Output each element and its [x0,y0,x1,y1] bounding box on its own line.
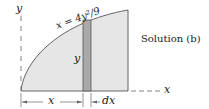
area-diagram: y x = 4y²/9 y Solution (b) x x dx [0,0,209,109]
differential-strip [83,20,91,91]
dim-x-label: x [48,94,54,107]
x-axis-label: x [164,83,170,96]
solution-caption: Solution (b) [141,33,201,44]
diagram-graphics [0,0,209,109]
strip-height-label: y [74,52,80,65]
dim-dx-label: dx [102,94,115,107]
arrowhead-left [22,101,27,104]
arrowhead-dx [92,101,97,104]
y-axis-label: y [16,2,22,15]
arrowhead-right [77,101,82,104]
